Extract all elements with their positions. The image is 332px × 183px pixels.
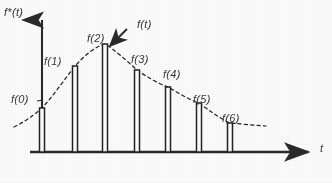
impulse-bar-f5 xyxy=(197,103,202,152)
sample-label-f0: f(0) xyxy=(11,93,29,105)
sample-label-f6: f(6) xyxy=(222,112,240,124)
impulse-bar-f6 xyxy=(228,123,233,152)
y-axis-label: f*(t) xyxy=(4,6,23,18)
impulse-bar-f3 xyxy=(135,70,140,152)
figure-sampled-signal: f*(t) t f(t) f(0) f(1) f(2) f(3) f(4) f(… xyxy=(0,0,332,183)
x-axis-label: t xyxy=(320,142,323,154)
envelope-callout-arrow xyxy=(110,29,127,46)
sample-label-f3: f(3) xyxy=(131,53,149,65)
sample-label-f2: f(2) xyxy=(87,32,105,44)
envelope-callout-label: f(t) xyxy=(137,18,152,30)
sample-label-f4: f(4) xyxy=(163,68,181,80)
impulse-bar-f1 xyxy=(73,66,78,152)
sample-label-f1: f(1) xyxy=(44,55,62,67)
plot-canvas xyxy=(0,0,332,183)
sample-label-f5: f(5) xyxy=(193,93,211,105)
impulse-bar-f2 xyxy=(103,44,108,152)
impulse-bar-f0 xyxy=(40,108,45,152)
impulse-bar-f4 xyxy=(166,87,171,152)
